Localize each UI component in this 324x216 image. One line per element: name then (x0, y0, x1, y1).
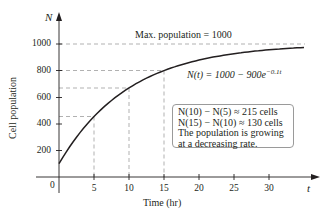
max-population-label: Max. population = 1000 (135, 30, 232, 40)
x-tick-5: 5 (84, 184, 104, 194)
y-axis-label: Cell population (8, 73, 18, 143)
equation-label: N(t) = 1000 − 900e−0.1t (187, 69, 281, 80)
y-tick-600: 600 (21, 93, 51, 103)
y-tick-800: 800 (21, 66, 51, 76)
x-tick-30: 30 (259, 184, 279, 194)
x-tick-15: 15 (154, 184, 174, 194)
x-axis-symbol: t (307, 183, 310, 194)
y-axis-symbol: N (45, 12, 52, 23)
y-tick-1000: 1000 (21, 39, 51, 49)
note-line-4: at a decreasing rate. (178, 139, 293, 150)
x-tick-25: 25 (224, 184, 244, 194)
annotation-box: N(10) − N(5) ≈ 215 cells N(15) − N(10) ≈… (172, 104, 294, 148)
equation-text: N(t) = 1000 − 900e (187, 69, 266, 80)
x-tick-10: 10 (119, 184, 139, 194)
y-axis-arrow-icon (56, 12, 62, 21)
y-tick-200: 200 (21, 146, 51, 156)
note-line-1: N(10) − N(5) ≈ 215 cells (178, 107, 293, 118)
x-axis-label: Time (hr) (143, 198, 181, 208)
equation-exponent: −0.1t (266, 68, 281, 76)
x-tick-20: 20 (189, 184, 209, 194)
x-axis-arrow-icon (311, 174, 320, 180)
y-tick-400: 400 (21, 119, 51, 129)
origin-label: 0 (50, 181, 55, 191)
